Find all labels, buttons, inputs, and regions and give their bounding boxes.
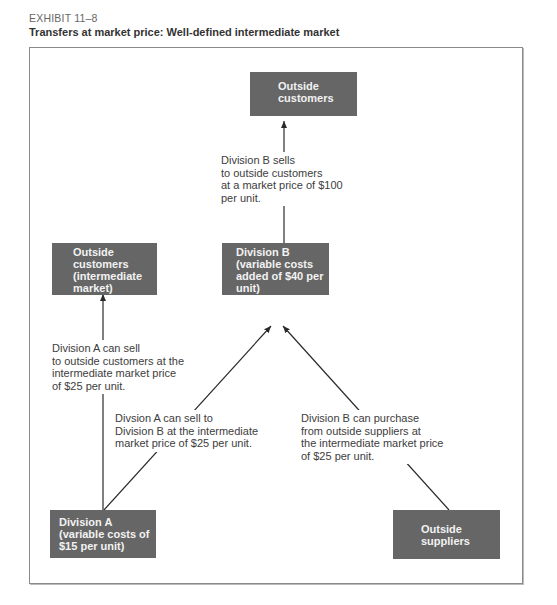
box-line: (variable costs of [59, 528, 156, 540]
box-line: customers [278, 92, 357, 104]
label-line: Division A can sell [52, 342, 184, 355]
box-line: added of $40 per [236, 270, 329, 282]
division-b-box: Division B (variable costs added of $40 … [222, 243, 329, 295]
box-line: suppliers [421, 535, 500, 547]
label-line: Division B sells [221, 154, 343, 167]
box-line: market) [73, 282, 157, 294]
label-line: Divsion A can sell to [115, 412, 258, 425]
outside-customers-intermediate-box: Outside customers (intermediate market) [52, 243, 157, 295]
label-line: to outside customers at the [52, 355, 184, 368]
box-line: $15 per unit) [59, 540, 156, 552]
label-a-sells-to-b: Divsion A can sell to Division B at the … [113, 410, 260, 452]
label-line: Division B at the intermediate [115, 425, 258, 438]
label-line: the intermediate market price [301, 437, 443, 450]
box-line: Outside [278, 80, 357, 92]
box-line: (intermediate [73, 270, 157, 282]
label-a-sells-outside: Division A can sell to outside customers… [50, 340, 186, 394]
label-line: from outside suppliers at [301, 425, 443, 438]
box-line: Outside [73, 246, 157, 258]
label-line: at a market price of $100 [221, 179, 343, 192]
label-line: market price of $25 per unit. [115, 437, 258, 450]
label-line: intermediate market price [52, 367, 184, 380]
label-line: of $25 per unit. [301, 450, 443, 463]
label-line: of $25 per unit. [52, 380, 184, 393]
box-line: customers [73, 258, 157, 270]
label-b-purchases: Division B can purchase from outside sup… [299, 410, 445, 464]
box-line: unit) [236, 282, 329, 294]
label-line: to outside customers [221, 167, 343, 180]
outside-customers-box: Outside customers [250, 72, 357, 116]
box-line: Outside [421, 523, 500, 535]
outside-suppliers-box: Outside suppliers [393, 510, 500, 559]
label-b-sells: Division B sells to outside customers at… [219, 152, 345, 206]
box-line: Division A [59, 516, 156, 528]
box-line: Division B [236, 246, 329, 258]
division-a-box: Division A (variable costs of $15 per un… [50, 510, 156, 558]
label-line: Division B can purchase [301, 412, 443, 425]
label-line: per unit. [221, 192, 343, 205]
box-line: (variable costs [236, 258, 329, 270]
